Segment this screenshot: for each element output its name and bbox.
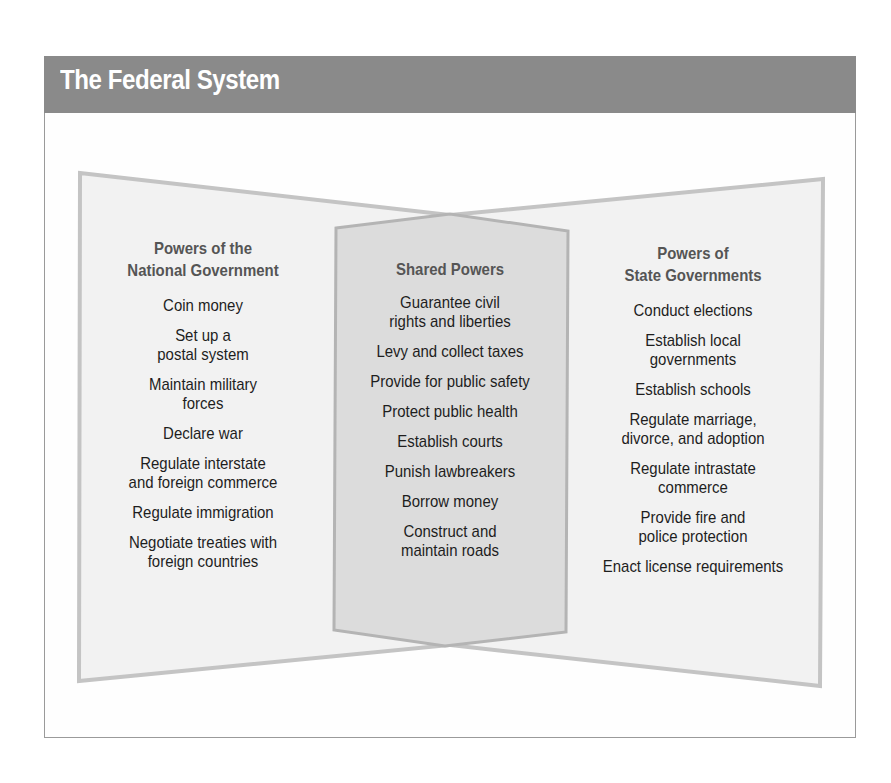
shared-power-item: Guarantee civil rights and liberties [344, 293, 555, 331]
shared-power-item: Protect public health [344, 402, 555, 421]
shared-powers-column: Shared Powers Guarantee civil rights and… [330, 259, 570, 571]
state-powers-heading: Powers of State Governments [583, 243, 803, 287]
national-power-item: Maintain military forces [93, 375, 313, 413]
shared-powers-heading: Shared Powers [344, 259, 555, 281]
shared-power-item: Punish lawbreakers [344, 462, 555, 481]
national-powers-heading: Powers of the National Government [93, 238, 313, 282]
national-power-item: Declare war [93, 424, 313, 443]
national-powers-column: Powers of the National Government Coin m… [78, 238, 328, 582]
state-power-item: Establish schools [583, 380, 803, 399]
national-power-item: Regulate immigration [93, 503, 313, 522]
shared-power-item: Provide for public safety [344, 372, 555, 391]
shared-power-item: Establish courts [344, 432, 555, 451]
national-power-item: Coin money [93, 296, 313, 315]
shared-power-item: Borrow money [344, 492, 555, 511]
shared-power-item: Construct and maintain roads [344, 522, 555, 560]
state-powers-column: Powers of State Governments Conduct elec… [568, 243, 818, 587]
shared-power-item: Levy and collect taxes [344, 342, 555, 361]
state-power-item: Conduct elections [583, 301, 803, 320]
state-power-item: Enact license requirements [583, 557, 803, 576]
state-power-item: Regulate intrastate commerce [583, 459, 803, 497]
state-power-item: Provide fire and police protection [583, 508, 803, 546]
national-power-item: Negotiate treaties with foreign countrie… [93, 533, 313, 571]
national-power-item: Set up a postal system [93, 326, 313, 364]
state-power-item: Regulate marriage, divorce, and adoption [583, 410, 803, 448]
national-power-item: Regulate interstate and foreign commerce [93, 454, 313, 492]
state-power-item: Establish local governments [583, 331, 803, 369]
